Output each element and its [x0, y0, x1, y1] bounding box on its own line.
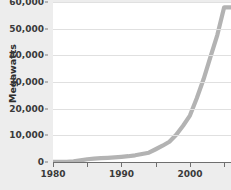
x-tick-mark	[121, 163, 122, 167]
gridline	[53, 55, 231, 56]
y-axis-ticks: 010,00020,00030,00040,00050,00060,000	[0, 0, 48, 190]
plot-area	[53, 2, 231, 162]
y-tick-mark	[45, 135, 48, 136]
x-tick-mark	[156, 163, 157, 167]
y-tick-label: 60,000	[9, 0, 44, 7]
y-tick-label: 0	[38, 157, 44, 167]
x-tick-mark	[53, 163, 54, 167]
y-tick-mark	[45, 82, 48, 83]
gridline	[53, 109, 231, 110]
x-tick-label: 1980	[40, 169, 65, 179]
y-tick-label: 30,000	[9, 77, 44, 87]
y-tick-mark	[45, 55, 48, 56]
x-tick-mark	[190, 163, 191, 167]
y-tick-mark	[45, 2, 48, 3]
y-tick-label: 20,000	[9, 104, 44, 114]
y-tick-mark	[45, 162, 48, 163]
y-tick-label: 40,000	[9, 50, 44, 60]
gridline	[53, 29, 231, 30]
gridline	[53, 82, 231, 83]
gridline	[53, 2, 231, 3]
chart-container: Megawatts 010,00020,00030,00040,00050,00…	[0, 0, 231, 190]
y-tick-label: 10,000	[9, 130, 44, 140]
x-axis-line	[53, 162, 231, 163]
x-tick-mark	[87, 163, 88, 167]
x-tick-label: 1990	[109, 169, 134, 179]
y-tick-mark	[45, 28, 48, 29]
y-tick-mark	[45, 108, 48, 109]
gridline	[53, 135, 231, 136]
x-tick-mark	[224, 163, 225, 167]
x-tick-label: 2000	[177, 169, 202, 179]
y-tick-label: 50,000	[9, 24, 44, 34]
